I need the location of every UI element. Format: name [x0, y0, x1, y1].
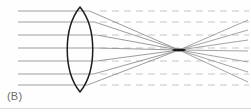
optics-figure-container: (B) [0, 0, 251, 112]
ray-diagram-canvas [0, 0, 251, 112]
diverging-ray-6 [179, 30, 248, 50]
diverging-ray-4 [179, 50, 248, 51]
refracted-ray-1 [90, 11, 180, 50]
diverging-rays-group [179, 20, 248, 82]
diverging-ray-3 [179, 50, 248, 62]
focal-point-marker [172, 49, 186, 52]
refracted-ray-5 [96, 50, 179, 61]
diverging-ray-1 [179, 50, 248, 82]
in-lens-ray-segments-group [63, 11, 97, 85]
diverging-ray-5 [179, 40, 248, 50]
refracted-ray-6 [94, 50, 180, 74]
biconvex-lens-outline [67, 7, 93, 92]
refracted-ray-2 [95, 22, 180, 50]
refracted-ray-7 [88, 50, 180, 85]
figure-label: (B) [7, 90, 22, 103]
